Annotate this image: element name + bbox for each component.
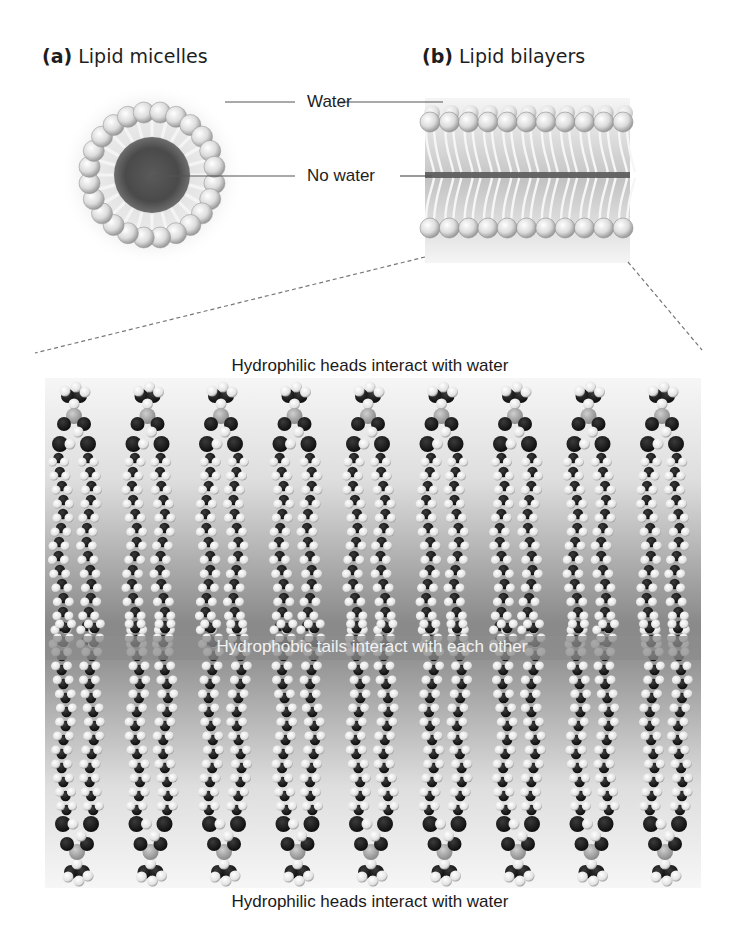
bilayer-illustration bbox=[420, 98, 635, 263]
water-label: Water bbox=[307, 92, 352, 112]
panel-b-title-text: Lipid bilayers bbox=[459, 45, 585, 67]
bottom-hydrophilic-caption: Hydrophilic heads interact with water bbox=[0, 892, 735, 912]
panel-a-title: (a) Lipid micelles bbox=[42, 45, 208, 67]
panel-a-letter: (a) bbox=[42, 45, 72, 67]
panel-b-title: (b) Lipid bilayers bbox=[422, 45, 585, 67]
top-hydrophilic-caption: Hydrophilic heads interact with water bbox=[0, 356, 735, 376]
zoom-dashed-lines bbox=[35, 257, 702, 353]
panel-b-letter: (b) bbox=[422, 45, 453, 67]
panel-a-title-text: Lipid micelles bbox=[78, 45, 207, 67]
no-water-label: No water bbox=[307, 166, 375, 186]
hydrophobic-tails-caption: Hydrophobic tails interact with each oth… bbox=[0, 637, 735, 657]
diagram-graphics bbox=[0, 0, 735, 942]
micelle-illustration bbox=[60, 83, 244, 267]
